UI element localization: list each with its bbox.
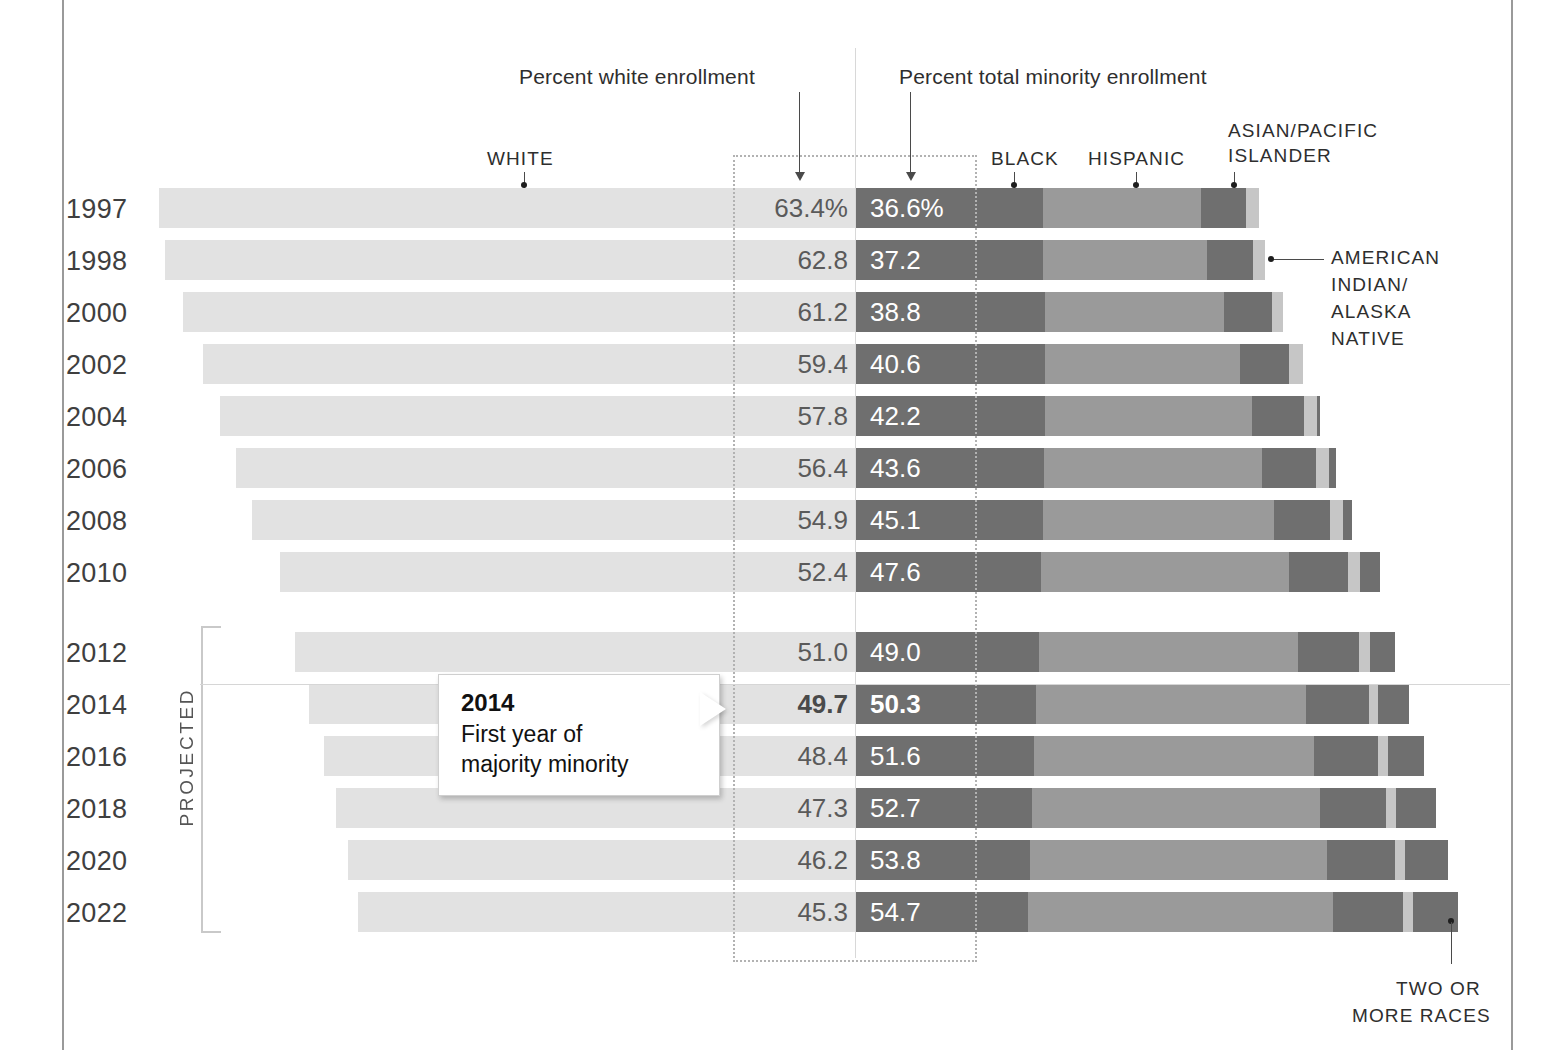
segment-hispanic-2016 (1034, 736, 1313, 776)
segment-asian-pacific-islander-2022 (1333, 892, 1402, 932)
year-label-2008: 2008 (66, 506, 152, 537)
segment-hispanic-2012 (1039, 632, 1299, 672)
segment-american-indian-2014 (1369, 684, 1379, 724)
segment-american-indian-1997 (1246, 188, 1258, 228)
segment-american-indian-2012 (1359, 632, 1370, 672)
segment-american-indian-1998 (1253, 240, 1265, 280)
year-label-2010: 2010 (66, 558, 152, 589)
segment-hispanic-2004 (1045, 396, 1252, 436)
legend-label-american-indian-line4: NATIVE (1331, 326, 1405, 351)
leader-dot-american-indian (1268, 256, 1274, 262)
segment-american-indian-2002 (1289, 344, 1302, 384)
callout-line1: First year of (461, 719, 701, 749)
year-label-2014: 2014 (66, 690, 152, 721)
year-label-2002: 2002 (66, 350, 152, 381)
segment-asian-pacific-islander-2006 (1262, 448, 1316, 488)
segment-two-or-more-races-2012 (1370, 632, 1395, 672)
legend-label-white: WHITE (487, 146, 554, 171)
callout-2014: 2014 First year of majority minority (438, 674, 720, 796)
callout-line2: majority minority (461, 749, 701, 779)
segment-asian-pacific-islander-1997 (1201, 188, 1246, 228)
legend-label-asian-line2: ISLANDER (1228, 143, 1332, 168)
segment-american-indian-2022 (1403, 892, 1413, 932)
segment-hispanic-1998 (1043, 240, 1207, 280)
year-label-2004: 2004 (66, 402, 152, 433)
legend-label-black: BLACK (991, 146, 1059, 171)
legend-label-american-indian-line2: INDIAN/ (1331, 272, 1408, 297)
legend-label-hispanic: HISPANIC (1088, 146, 1185, 171)
annotation-percent-white: Percent white enrollment (519, 64, 755, 90)
segment-two-or-more-races-2014 (1378, 684, 1409, 724)
segment-asian-pacific-islander-2000 (1224, 292, 1271, 332)
segment-hispanic-1997 (1043, 188, 1201, 228)
segment-two-or-more-races-2008 (1343, 500, 1352, 540)
segment-hispanic-2000 (1045, 292, 1224, 332)
segment-asian-pacific-islander-2014 (1306, 684, 1369, 724)
segment-american-indian-2000 (1272, 292, 1283, 332)
segment-american-indian-2006 (1316, 448, 1329, 488)
leader-line-american-indian (1272, 259, 1324, 260)
segment-asian-pacific-islander-2004 (1252, 396, 1304, 436)
leader-dot-asian (1231, 182, 1237, 188)
projected-bracket (201, 626, 221, 933)
year-label-2016: 2016 (66, 742, 152, 773)
segment-two-or-more-races-2004 (1317, 396, 1320, 436)
leader-line-two-or-more (1451, 922, 1452, 964)
center-guide-line (855, 48, 856, 958)
segment-american-indian-2004 (1304, 396, 1317, 436)
segment-two-or-more-races-2010 (1360, 552, 1380, 592)
majority-minority-crossing-rule (200, 684, 1510, 685)
segment-hispanic-2020 (1030, 840, 1327, 880)
leader-dot-black (1011, 182, 1017, 188)
callout-title: 2014 (461, 689, 701, 717)
legend-label-american-indian-line1: AMERICAN (1331, 245, 1440, 270)
segment-asian-pacific-islander-2008 (1274, 500, 1330, 540)
segment-american-indian-2018 (1386, 788, 1396, 828)
annotation-percent-minority: Percent total minority enrollment (899, 64, 1207, 90)
segment-asian-pacific-islander-2002 (1240, 344, 1290, 384)
year-label-1997: 1997 (66, 194, 152, 225)
segment-hispanic-2022 (1028, 892, 1334, 932)
year-label-2000: 2000 (66, 298, 152, 329)
segment-two-or-more-races-2018 (1396, 788, 1436, 828)
segment-two-or-more-races-2020 (1405, 840, 1448, 880)
legend-label-american-indian-line3: ALASKA (1331, 299, 1412, 324)
segment-hispanic-2002 (1045, 344, 1240, 384)
segment-asian-pacific-islander-2016 (1314, 736, 1379, 776)
year-label-2006: 2006 (66, 454, 152, 485)
segment-american-indian-2010 (1348, 552, 1360, 592)
segment-hispanic-2010 (1041, 552, 1290, 592)
segment-hispanic-2018 (1032, 788, 1320, 828)
segment-hispanic-2008 (1043, 500, 1274, 540)
year-label-2018: 2018 (66, 794, 152, 825)
leader-dot-white (521, 182, 527, 188)
callout-tail (700, 692, 726, 726)
segment-asian-pacific-islander-2010 (1289, 552, 1347, 592)
segment-hispanic-2006 (1044, 448, 1262, 488)
year-label-1998: 1998 (66, 246, 152, 277)
segment-two-or-more-races-2006 (1329, 448, 1336, 488)
legend-label-two-or-more-line2: MORE RACES (1352, 1003, 1491, 1028)
segment-asian-pacific-islander-2018 (1320, 788, 1386, 828)
segment-asian-pacific-islander-1998 (1207, 240, 1253, 280)
segment-asian-pacific-islander-2020 (1327, 840, 1395, 880)
segment-two-or-more-races-2016 (1388, 736, 1423, 776)
segment-asian-pacific-islander-2012 (1298, 632, 1359, 672)
legend-label-two-or-more-line1: TWO OR (1396, 976, 1481, 1001)
leader-dot-hispanic (1133, 182, 1139, 188)
year-label-2020: 2020 (66, 846, 152, 877)
legend-label-asian-line1: ASIAN/PACIFIC (1228, 118, 1378, 143)
year-label-2012: 2012 (66, 638, 152, 669)
year-label-2022: 2022 (66, 898, 152, 929)
segment-american-indian-2008 (1330, 500, 1343, 540)
segment-hispanic-2014 (1036, 684, 1306, 724)
projected-label: PROJECTED (176, 688, 198, 826)
segment-american-indian-2016 (1378, 736, 1388, 776)
segment-american-indian-2020 (1395, 840, 1405, 880)
